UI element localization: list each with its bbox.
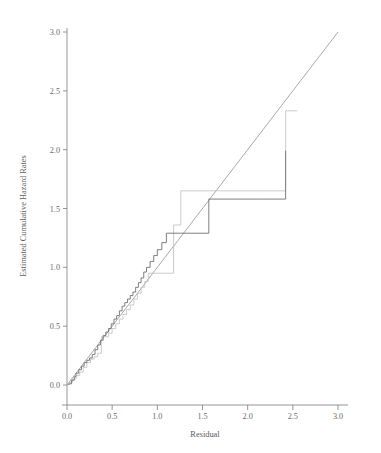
x-axis-title: Residual [190, 430, 220, 439]
y-tick-label: 2.0 [50, 146, 60, 155]
y-axis-title: Estimated Cumulative Hazard Rates [19, 155, 28, 277]
hazard-step-curve-light [69, 111, 298, 385]
x-tick-label: 2.0 [243, 412, 253, 421]
y-tick-label: 1.0 [50, 263, 60, 272]
y-tick-label: 1.5 [50, 205, 60, 214]
plot-canvas: 0.00.51.01.52.02.53.0 0.00.51.01.52.02.5… [0, 0, 381, 453]
x-tick-label: 2.5 [288, 412, 298, 421]
cumulative-hazard-plot: 0.00.51.01.52.02.53.0 0.00.51.01.52.02.5… [0, 0, 381, 453]
x-tick-label: 3.0 [333, 412, 343, 421]
x-tick-label: 1.0 [152, 412, 162, 421]
y-axis-ticks: 0.00.51.01.52.02.53.0 [50, 28, 67, 390]
x-tick-label: 0.0 [62, 412, 72, 421]
y-tick-label: 3.0 [50, 28, 60, 37]
x-tick-label: 1.5 [197, 412, 207, 421]
y-tick-label: 2.5 [50, 87, 60, 96]
x-axis-ticks: 0.00.51.01.52.02.53.0 [62, 405, 343, 421]
x-tick-label: 0.5 [107, 412, 117, 421]
y-tick-label: 0.5 [50, 322, 60, 331]
y-tick-label: 0.0 [50, 381, 60, 390]
